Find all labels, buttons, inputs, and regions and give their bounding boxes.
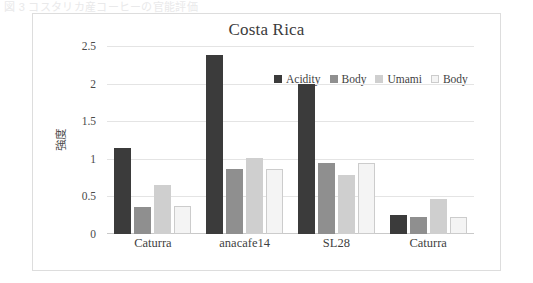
bar-acidity	[206, 55, 223, 234]
bar-group	[382, 46, 474, 234]
cropped-caption-strip: 図 3 コスタリカ産コーヒーの官能評価	[0, 0, 533, 14]
bar-group	[107, 46, 199, 234]
y-axis-tick-label: 0	[90, 228, 105, 240]
x-axis-label: Caturra	[107, 236, 199, 251]
y-axis-tick-label: 2.5	[82, 40, 105, 52]
bar-body	[318, 163, 335, 234]
x-axis-label: SL28	[291, 236, 383, 251]
bar-body	[410, 217, 427, 234]
bar-body	[358, 163, 375, 234]
y-axis-tick-label: 0.5	[82, 190, 105, 202]
bar-body	[226, 169, 243, 234]
x-axis-label: anacafe14	[199, 236, 291, 251]
bar-body	[266, 169, 283, 234]
y-axis-tick-label: 1	[90, 153, 105, 165]
bar-acidity	[390, 215, 407, 234]
bar-body	[450, 217, 467, 234]
bar-group	[291, 46, 383, 234]
bar-body	[174, 206, 191, 234]
x-axis-label: Caturra	[382, 236, 474, 251]
bar-acidity	[114, 148, 131, 234]
bar-umami	[430, 199, 447, 234]
bar-body	[134, 207, 151, 234]
cropped-caption-text: 図 3 コスタリカ産コーヒーの官能評価	[4, 0, 198, 14]
bar-groups	[107, 46, 474, 234]
bar-umami	[154, 185, 171, 234]
bar-umami	[338, 175, 355, 234]
y-axis-tick-label: 2	[90, 77, 105, 89]
bar-group	[199, 46, 291, 234]
chart-title: Costa Rica	[33, 20, 500, 40]
bar-acidity	[298, 84, 315, 234]
bar-umami	[246, 158, 263, 234]
y-axis-tick-label: 1.5	[82, 115, 105, 127]
x-axis-labels: Caturraanacafe14SL28Caturra	[107, 236, 474, 251]
screenshot-page: 図 3 コスタリカ産コーヒーの官能評価 Costa Rica AcidityBo…	[0, 0, 533, 283]
plot-area: 00.511.522.5 強度 Caturraanacafe14SL28Catu…	[107, 46, 474, 234]
chart-frame: Costa Rica AcidityBodyUmamiBody 00.511.5…	[32, 13, 501, 271]
y-axis-title: 強度	[52, 129, 68, 151]
